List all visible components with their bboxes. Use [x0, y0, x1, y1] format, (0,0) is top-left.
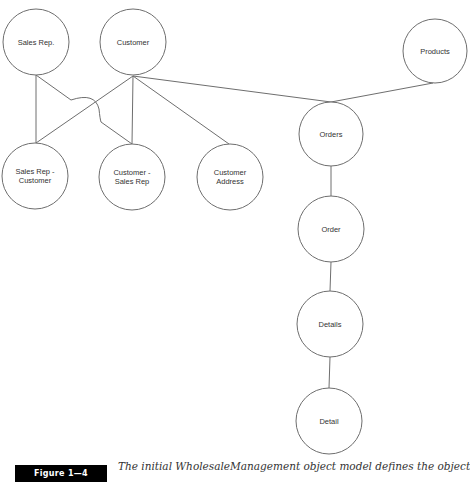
node-label: Customer: [19, 176, 52, 185]
node-label: Sales Rep.: [18, 38, 55, 47]
node-label: Detail: [319, 417, 339, 426]
edge-customer-salesrepcustomer: [36, 76, 133, 143]
edges: [36, 75, 433, 388]
edge-details-detail: [329, 357, 330, 388]
node-label: Customer: [117, 38, 150, 47]
node-label: Details: [319, 320, 342, 329]
edge-order-details: [330, 262, 331, 291]
node-customer-sales-rep: Customer -Sales Rep: [99, 144, 165, 210]
node-customer: Customer: [100, 9, 166, 75]
node-order: Order: [298, 196, 364, 262]
node-label: Customer: [214, 168, 247, 177]
node-label: Products: [420, 47, 450, 56]
node-label: Address: [216, 177, 244, 186]
node-label: Customer -: [113, 168, 151, 177]
node-label: Orders: [320, 130, 343, 139]
edge-products-orders: [331, 83, 433, 102]
node-label: Sales Rep -: [15, 167, 55, 176]
node-sales-rep-customer: Sales Rep -Customer: [2, 143, 68, 209]
node-sales-rep: Sales Rep.: [3, 9, 69, 75]
node-orders: Orders: [299, 102, 363, 166]
node-customer-address: CustomerAddress: [197, 144, 263, 210]
figure-caption: The initial WholesaleManagement object m…: [118, 460, 468, 472]
node-detail: Detail: [296, 388, 362, 454]
edge-customer-customersalesrep: [132, 76, 133, 144]
edge-customer-customeraddress: [133, 76, 229, 144]
edge-customer-orders: [133, 76, 331, 102]
nodes: Sales Rep.CustomerProductsSales Rep -Cus…: [2, 9, 467, 454]
figure-number-tag: Figure 1—4: [15, 465, 107, 482]
object-model-diagram: Sales Rep.CustomerProductsSales Rep -Cus…: [0, 0, 470, 482]
node-products: Products: [403, 19, 467, 83]
node-details: Details: [297, 291, 363, 357]
node-label: Order: [321, 225, 341, 234]
node-label: Sales Rep: [115, 177, 150, 186]
